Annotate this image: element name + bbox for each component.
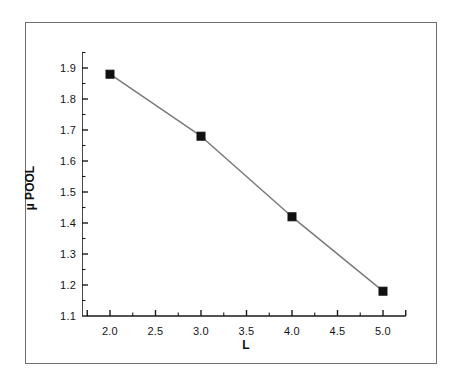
y-tick-label: 1.7	[44, 124, 76, 136]
x-tick-label: 3.0	[193, 325, 209, 337]
plot-area	[82, 52, 420, 316]
data-point-marker	[197, 132, 205, 140]
data-point-marker	[379, 287, 387, 295]
x-tick-label: 4.0	[284, 325, 300, 337]
y-tick-label: 1.5	[44, 186, 76, 198]
y-tick-label: 1.9	[44, 62, 76, 74]
data-point-marker	[106, 70, 114, 78]
x-tick-label: 2.0	[102, 325, 118, 337]
y-tick-label: 1.2	[44, 279, 76, 291]
series-line	[110, 74, 383, 291]
y-axis-label: µ POOL	[23, 166, 37, 210]
x-tick-label: 5.0	[375, 325, 391, 337]
data-point-marker	[288, 213, 296, 221]
chart-figure: 1.11.21.31.41.51.61.71.81.9 2.02.53.03.5…	[0, 0, 463, 384]
x-tick-label: 2.5	[148, 325, 164, 337]
y-tick-label: 1.3	[44, 248, 76, 260]
x-tick-label: 3.5	[239, 325, 255, 337]
y-tick-label: 1.1	[44, 310, 76, 322]
x-axis-label: L	[242, 338, 249, 352]
y-tick-label: 1.8	[44, 93, 76, 105]
x-tick-label: 4.5	[330, 325, 346, 337]
y-tick-label: 1.6	[44, 155, 76, 167]
plot-svg	[82, 52, 420, 324]
y-tick-label: 1.4	[44, 217, 76, 229]
